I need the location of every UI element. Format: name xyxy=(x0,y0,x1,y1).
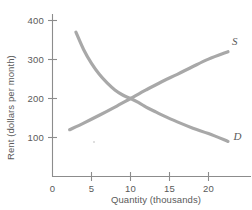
demand-curve-label: D xyxy=(233,130,242,142)
supply-curve-line xyxy=(70,52,228,130)
x-tick-label-0: 0 xyxy=(50,183,55,194)
y-tick-label-100: 100 xyxy=(28,132,44,143)
x-tick-label-5: 5 xyxy=(89,183,94,194)
x-tick-label-15: 15 xyxy=(164,183,175,194)
x-tick-label-10: 10 xyxy=(125,183,136,194)
y-tick-label-300: 300 xyxy=(28,54,44,65)
supply-curve-label: S xyxy=(232,35,238,47)
x-tick-label-20: 20 xyxy=(203,183,214,194)
y-tick-label-200: 200 xyxy=(28,93,44,104)
y-axis-title: Rent (dollars per month) xyxy=(5,55,16,160)
x-axis-title: Quantity (thousands) xyxy=(111,194,201,205)
scan-speck xyxy=(93,141,95,143)
y-tick-label-400: 400 xyxy=(28,15,44,26)
chart-plot-area: 400 300 200 100 0 5 10 15 20 S D Rent (d… xyxy=(0,0,252,210)
chart-axes xyxy=(53,14,252,177)
supply-demand-chart: 400 300 200 100 0 5 10 15 20 S D Rent (d… xyxy=(0,0,252,210)
